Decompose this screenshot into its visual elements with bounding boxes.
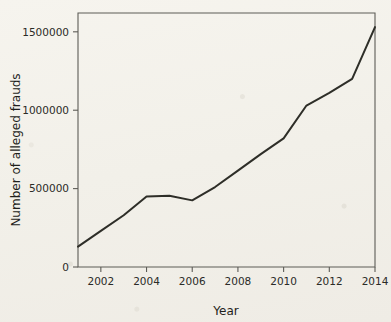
chart-figure: 050000010000001500000 200220042006200820… bbox=[0, 0, 391, 322]
x-tick-label: 2002 bbox=[87, 275, 114, 287]
line-chart: 050000010000001500000 200220042006200820… bbox=[0, 0, 391, 322]
y-tick-label: 1000000 bbox=[22, 104, 69, 116]
x-tick-label: 2012 bbox=[316, 275, 343, 287]
x-tick-label: 2008 bbox=[225, 275, 252, 287]
axes bbox=[78, 13, 375, 267]
data-series-line bbox=[78, 27, 375, 247]
x-tick-label: 2004 bbox=[133, 275, 160, 287]
y-tick-label: 500000 bbox=[29, 182, 69, 194]
x-axis-ticks: 2002200420062008201020122014 bbox=[87, 267, 388, 287]
y-axis-title: Number of alleged frauds bbox=[9, 73, 23, 226]
y-axis-ticks: 050000010000001500000 bbox=[22, 26, 78, 273]
x-tick-label: 2006 bbox=[179, 275, 206, 287]
y-tick-label: 1500000 bbox=[22, 26, 69, 38]
x-tick-label: 2010 bbox=[270, 275, 297, 287]
y-tick-label: 0 bbox=[62, 261, 69, 273]
x-tick-label: 2014 bbox=[362, 275, 389, 287]
x-axis-title: Year bbox=[212, 304, 238, 318]
plot-frame bbox=[78, 13, 375, 267]
